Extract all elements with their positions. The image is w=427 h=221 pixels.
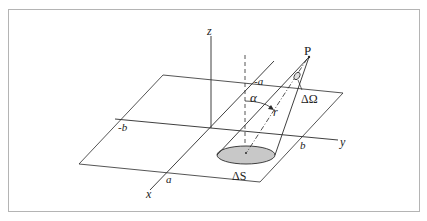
ellipse-center-dot (245, 152, 247, 154)
solid-angle-label: ΔΩ (301, 92, 318, 106)
pos-b-label: b (300, 139, 306, 151)
figure-frame (9, 10, 420, 212)
r-label: r (273, 105, 278, 119)
surface-element-label: ΔS (232, 169, 246, 183)
pos-a-label: a (166, 173, 172, 185)
surface-element-ellipse (217, 146, 275, 164)
neg-a-label: -a (254, 75, 264, 87)
point-p-label: P (304, 43, 311, 58)
x-axis-label: x (145, 187, 152, 201)
solid-angle-diagram: z y x P ΔΩ α r ΔS -a a -b b (0, 0, 427, 221)
neg-b-label: -b (118, 121, 128, 133)
alpha-label: α (250, 90, 258, 105)
z-axis-label: z (206, 24, 212, 38)
y-axis-label: y (339, 135, 346, 149)
